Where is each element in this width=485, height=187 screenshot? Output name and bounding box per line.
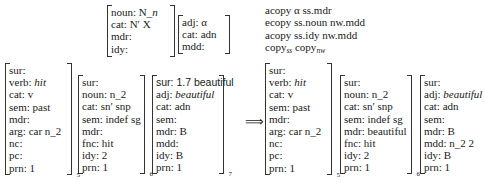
attr-cat: cat: adn: [424, 100, 485, 112]
right-bracket: [327, 63, 332, 175]
attr-sur: sur:: [344, 76, 406, 88]
attr-sur: sur:: [9, 64, 66, 76]
attr-mdr: mdr: B: [156, 125, 218, 137]
attr-mdr: mdr:: [9, 113, 66, 125]
attr-cat: cat: sn′ snp: [82, 100, 139, 112]
attr-prn: prn: 1: [156, 161, 218, 173]
attr-mdd: mdd: n_2 2: [424, 137, 485, 149]
right-bracket: [170, 5, 175, 57]
attr-pc: pc:: [9, 149, 66, 161]
attr-mdd: mdd:: [156, 137, 218, 149]
right-bracket: [219, 75, 224, 174]
input-adj-proplet: sur: 1.7 beautiful adj: beautiful cat: a…: [152, 75, 224, 174]
attr-idy: idy: B: [156, 149, 218, 161]
attr-cat: cat: sn′ snp: [344, 100, 406, 112]
attr-noun: noun: n_2: [82, 88, 139, 100]
attr-sur: sur:: [424, 76, 485, 88]
attr-sur: sur:: [269, 64, 326, 76]
input-verb-proplet: sur: verb: hit cat: v sem: past mdr: arg…: [5, 63, 72, 175]
attr-sem: sem: past: [269, 101, 326, 113]
right-bracket: [67, 63, 72, 175]
attr-idy: idy: 2: [344, 149, 406, 161]
rule-operations: acopy α ss.mdr ecopy ss.noun nw.mdd acop…: [265, 4, 365, 57]
input-noun-proplet: sur: noun: n_2 cat: sn′ snp sem: indef s…: [78, 75, 145, 174]
left-bracket: [107, 5, 112, 57]
attr-prn: prn: 1: [424, 161, 485, 173]
pattern-noun-proplet: noun: N_n cat: N′ X mdr: idy:: [107, 5, 175, 57]
attr-adj: adj: beautiful: [156, 88, 218, 100]
operation-line: ecopy ss.noun nw.mdd: [265, 16, 365, 28]
attr-cat: cat: v: [269, 88, 326, 100]
attr-fnc: fnc: hit: [82, 137, 139, 149]
attr-noun: noun: n_2: [344, 88, 406, 100]
attr-prn: prn: 1: [344, 161, 406, 173]
attr-sem: sem: indef sg: [82, 113, 139, 125]
output-verb-proplet: sur: verb: hit cat: v sem: past mdr: arg…: [265, 63, 332, 175]
attr-verb: verb: hit: [269, 76, 326, 88]
attr-sem: sem: indef sg: [344, 113, 406, 125]
right-bracket: [407, 75, 412, 174]
attr-sur: sur: 1.7 beautiful: [156, 76, 218, 88]
attr-idy: idy:: [111, 43, 169, 55]
attr-adj: adj: beautiful: [424, 88, 485, 100]
attr-mdr: mdr: B: [424, 125, 485, 137]
left-bracket: [265, 63, 270, 175]
output-adj-proplet: sur: adj: beautiful cat: adn sem: mdr: B…: [420, 75, 485, 174]
left-bracket: [420, 75, 425, 174]
proplet-index: 7: [229, 168, 233, 180]
left-bracket: [78, 75, 83, 174]
attr-noun: noun: N_n: [111, 6, 169, 18]
attr-sem: sem:: [424, 113, 485, 125]
attr-mdr: mdr:: [82, 125, 139, 137]
attr-mdr: mdr:: [111, 30, 169, 42]
right-bracket: [140, 75, 145, 174]
attr-arg: arg: car n_2: [9, 125, 66, 137]
attr-mdr: mdr: beautiful: [344, 125, 406, 137]
operation-line: copyss copynw: [265, 41, 365, 57]
attr-sem: sem: past: [9, 101, 66, 113]
attr-nc: nc:: [9, 137, 66, 149]
operation-line: acopy ss.idy nw.mdd: [265, 29, 365, 41]
attr-cat: cat: v: [9, 88, 66, 100]
attr-idy: idy: 2: [82, 149, 139, 161]
attr-sem: sem:: [156, 113, 218, 125]
attr-pc: pc:: [269, 149, 326, 161]
attr-nc: nc:: [269, 137, 326, 149]
attr-arg: arg: car n_2: [269, 125, 326, 137]
attr-verb: verb: hit: [9, 76, 66, 88]
attr-cat: cat: N′ X: [111, 18, 169, 30]
output-noun-proplet: sur: noun: n_2 cat: sn′ snp sem: indef s…: [340, 75, 412, 174]
right-bracket: [225, 15, 230, 54]
left-bracket: [178, 15, 183, 54]
left-bracket: [340, 75, 345, 174]
attr-fnc: fnc: hit: [344, 137, 406, 149]
attr-prn: prn: 1: [269, 162, 326, 174]
attr-prn: prn: 1: [9, 162, 66, 174]
attr-cat: cat: adn: [182, 28, 224, 40]
attr-adj: adj: α: [182, 16, 224, 28]
attr-mdr: mdr:: [269, 113, 326, 125]
attr-mdd: mdd:: [182, 40, 224, 52]
attr-sur: sur:: [82, 76, 139, 88]
left-bracket: [5, 63, 10, 175]
implies-arrow-icon: ⟹: [245, 114, 264, 129]
pattern-adj-proplet: adj: α cat: adn mdd:: [178, 15, 230, 54]
left-bracket: [152, 75, 157, 174]
attr-cat: cat: adn: [156, 100, 218, 112]
attr-prn: prn: 1: [82, 161, 139, 173]
attr-idy: idy: B: [424, 149, 485, 161]
operation-line: acopy α ss.mdr: [265, 4, 365, 16]
